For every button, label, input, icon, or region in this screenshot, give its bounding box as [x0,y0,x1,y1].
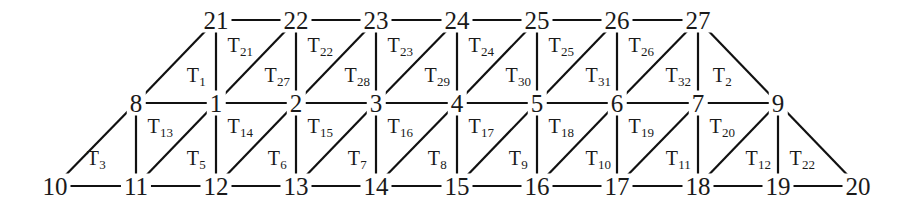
vertex-4: 4 [448,91,467,116]
vertex-2: 2 [287,91,306,116]
vertex-16: 16 [522,174,553,199]
vertex-13: 13 [281,174,312,199]
face-label-T11: T11 [666,148,691,168]
face-label-subscript: 16 [400,125,413,140]
vertex-19: 19 [763,174,794,199]
face-label-base: T [187,147,199,169]
face-label-T25: T25 [548,35,573,55]
face-label-subscript: 18 [561,125,574,140]
face-label-subscript: 5 [199,157,206,172]
face-label-base: T [548,34,560,56]
vertex-12: 12 [201,174,232,199]
face-label-T12: T12 [745,148,770,168]
face-label-base: T [264,64,276,86]
face-label-T30: T30 [505,65,530,85]
face-label-T6: T6 [268,148,287,168]
face-label-base: T [387,34,399,56]
face-label-subscript: 29 [437,74,450,89]
face-label-base: T [585,147,597,169]
face-label-base: T [509,147,521,169]
face-label-base: T [428,147,440,169]
face-label-subscript: 8 [440,157,447,172]
face-label-subscript: 32 [678,74,691,89]
face-label-T26: T26 [628,35,653,55]
face-label-T17: T17 [468,116,493,136]
vertex-21: 21 [201,8,232,33]
face-label-base: T [745,147,757,169]
face-label-base: T [585,64,597,86]
face-label-base: T [505,64,517,86]
face-label-T29: T29 [424,65,449,85]
face-label-T19: T19 [628,116,653,136]
face-label-T16: T16 [387,116,412,136]
face-label-subscript: 26 [641,44,654,59]
face-label-base: T [387,115,399,137]
face-label-base: T [187,64,199,86]
vertex-27: 27 [683,8,714,33]
face-label-base: T [227,34,239,56]
face-label-T10: T10 [585,148,610,168]
face-label-T15: T15 [307,116,332,136]
vertex-20: 20 [843,174,874,199]
face-label-base: T [227,115,239,137]
face-label-subscript: 27 [277,74,290,89]
face-label-T22: T22 [789,148,814,168]
face-label-subscript: 30 [518,74,531,89]
face-label-T23: T23 [387,35,412,55]
face-label-T20: T20 [709,116,734,136]
face-label-subscript: 25 [561,44,574,59]
face-label-subscript: 24 [481,44,494,59]
face-label-base: T [87,147,99,169]
face-label-subscript: 14 [240,125,253,140]
face-label-base: T [468,34,480,56]
vertex-18: 18 [683,174,714,199]
vertex-11: 11 [121,174,151,199]
face-label-T13: T13 [147,116,172,136]
face-label-subscript: 19 [641,125,654,140]
face-label-T14: T14 [227,116,252,136]
face-label-subscript: 7 [360,157,367,172]
face-label-T31: T31 [585,65,610,85]
face-label-base: T [665,64,677,86]
vertex-3: 3 [367,91,386,116]
vertex-15: 15 [442,174,473,199]
vertex-24: 24 [442,8,473,33]
face-label-subscript: 20 [722,125,735,140]
face-label-subscript: 3 [99,157,106,172]
face-label-T5: T5 [187,148,206,168]
vertex-9: 9 [769,91,788,116]
face-label-subscript: 28 [357,74,370,89]
vertex-22: 22 [281,8,312,33]
face-label-subscript: 22 [320,44,333,59]
face-label-T32: T32 [665,65,690,85]
face-label-base: T [709,115,721,137]
face-label-subscript: 15 [320,125,333,140]
vertex-8: 8 [127,91,146,116]
face-label-base: T [348,147,360,169]
face-label-subscript: 23 [400,44,413,59]
face-label-base: T [713,64,725,86]
face-label-subscript: 31 [598,74,611,89]
face-label-base: T [789,147,801,169]
face-label-subscript: 1 [199,74,206,89]
vertex-26: 26 [602,8,633,33]
face-label-subscript: 11 [678,157,691,172]
face-label-base: T [307,34,319,56]
face-label-base: T [424,64,436,86]
vertex-23: 23 [361,8,392,33]
face-label-T8: T8 [428,148,447,168]
face-label-base: T [628,115,640,137]
vertex-10: 10 [40,174,71,199]
vertex-7: 7 [689,91,708,116]
face-label-T22: T22 [307,35,332,55]
face-label-base: T [666,147,678,169]
vertex-6: 6 [608,91,627,116]
vertex-25: 25 [522,8,553,33]
face-label-subscript: 2 [725,74,732,89]
face-label-T27: T27 [264,65,289,85]
face-label-base: T [548,115,560,137]
vertex-17: 17 [602,174,633,199]
face-label-T7: T7 [348,148,367,168]
face-label-base: T [468,115,480,137]
face-label-subscript: 17 [481,125,494,140]
